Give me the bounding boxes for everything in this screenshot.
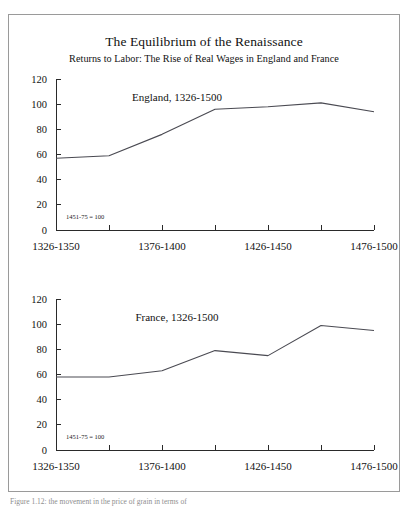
figure-page: The Equilibrium of the Renaissance Retur…	[0, 0, 409, 509]
france-y-tick-label: 100	[31, 319, 47, 330]
figure-frame: The Equilibrium of the Renaissance Retur…	[8, 14, 400, 492]
figure-caption: Figure 1.12: the movement in the price o…	[10, 497, 405, 508]
france-y-tick-label: 60	[37, 369, 48, 380]
england-y-tick-label: 80	[37, 124, 48, 135]
france-x-tick-label: 1376-1400	[138, 460, 186, 472]
england-x-tick-label: 1326-1350	[32, 240, 80, 252]
england-series-line	[56, 103, 374, 158]
england-y-tick-label: 60	[37, 149, 48, 160]
france-annotation: 1451-75 = 100	[66, 433, 104, 440]
france-x-tick-label: 1426-1450	[244, 460, 292, 472]
france-y-tick-label: 80	[37, 344, 48, 355]
france-series-title: France, 1326-1500	[135, 311, 219, 323]
england-y-tick-label: 0	[42, 225, 47, 236]
france-x-tick-label: 1326-1350	[32, 460, 80, 472]
figure-main-title: The Equilibrium of the Renaissance	[9, 33, 399, 50]
england-y-tick-label: 100	[31, 99, 47, 110]
england-x-tick-label: 1476-1500	[350, 240, 398, 252]
england-x-tick-label: 1376-1400	[138, 240, 186, 252]
france-y-tick-label: 0	[42, 445, 47, 456]
england-x-tick-label: 1426-1450	[244, 240, 292, 252]
figure-title-block: The Equilibrium of the Renaissance Retur…	[9, 33, 399, 66]
france-y-tick-label: 120	[31, 294, 47, 305]
england-y-tick-label: 20	[37, 199, 48, 210]
england-y-tick-label: 40	[37, 174, 48, 185]
chart-england: 0204060801001201326-13501376-14001426-14…	[9, 67, 401, 267]
england-annotation: 1451-75 = 100	[66, 213, 104, 220]
figure-subtitle: Returns to Labor: The Rise of Real Wages…	[9, 51, 399, 66]
chart-france: 0204060801001201326-13501376-14001426-14…	[9, 287, 401, 487]
france-series-line	[56, 325, 374, 377]
france-x-tick-label: 1476-1500	[350, 460, 398, 472]
france-y-tick-label: 40	[37, 394, 48, 405]
england-y-tick-label: 120	[31, 74, 47, 85]
france-y-tick-label: 20	[37, 419, 48, 430]
england-series-title: England, 1326-1500	[132, 91, 222, 103]
